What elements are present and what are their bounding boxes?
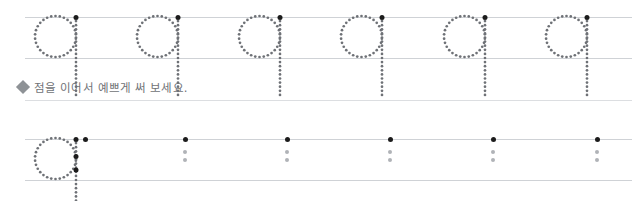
practice-start-dot	[183, 137, 188, 142]
practice-guide-dot	[388, 150, 392, 154]
dotted-letter-q	[33, 16, 99, 102]
practice-guide-dot	[595, 158, 599, 162]
practice-row-baseline-rule	[25, 180, 632, 181]
practice-guide-dot	[595, 150, 599, 154]
dotted-letter-q	[33, 138, 99, 201]
handwriting-worksheet: 점을 이어서 예쁘게 써 보세요.	[0, 0, 644, 201]
practice-guide-dot	[491, 158, 495, 162]
dotted-letter-q	[442, 16, 508, 102]
practice-start-dot	[285, 137, 290, 142]
practice-row-top-rule	[25, 139, 632, 140]
practice-guide-dot	[183, 158, 187, 162]
practice-guide-dot	[388, 158, 392, 162]
dotted-letter-q	[237, 16, 303, 102]
dotted-letter-q	[135, 16, 201, 102]
model-row-baseline-rule	[25, 58, 632, 59]
instruction-separator	[25, 100, 632, 101]
practice-guide-dot	[285, 150, 289, 154]
diamond-bullet-icon	[16, 80, 30, 94]
practice-guide-dot	[285, 158, 289, 162]
dotted-letter-q	[339, 16, 405, 102]
practice-start-dot	[595, 137, 600, 142]
practice-start-dot	[83, 137, 88, 142]
practice-start-dot	[388, 137, 393, 142]
practice-start-dot	[491, 137, 496, 142]
dotted-letter-q	[544, 16, 610, 102]
practice-guide-dot	[183, 150, 187, 154]
practice-guide-dot	[491, 150, 495, 154]
model-row-top-rule	[25, 17, 632, 18]
